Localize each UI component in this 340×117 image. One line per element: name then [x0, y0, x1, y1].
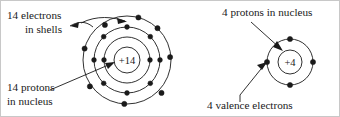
carbon-atom: +4 — [264, 36, 315, 87]
atomic-structure-figure: +14 — [0, 0, 340, 117]
figure-canvas: +14 — [1, 1, 340, 117]
carbon-nucleus-label: +4 — [284, 57, 296, 68]
electrons-leader-b-arrow — [117, 18, 127, 24]
electron-dot — [125, 91, 130, 96]
electron-dot — [87, 84, 92, 89]
electrons-label-line1: 14 electrons — [7, 9, 61, 21]
electron-dot — [287, 36, 292, 41]
valence-leader-right-line — [240, 64, 265, 102]
electron-dot — [148, 34, 153, 39]
electron-dot — [148, 58, 153, 63]
valence-electrons-label: 4 valence electrons — [207, 99, 293, 111]
silicon-nucleus-label: +14 — [119, 55, 136, 66]
electron-dot — [122, 101, 127, 106]
electron-dot — [155, 26, 160, 31]
leader-lines — [50, 18, 283, 103]
valence-leader-right-arrow — [257, 62, 267, 70]
electron-dot — [168, 55, 173, 60]
electron-dot — [125, 25, 130, 30]
electron-dot — [287, 82, 292, 87]
protons-leader-left-arrow — [105, 62, 115, 69]
protons-leader-left-line — [50, 63, 113, 90]
silicon-atom: +14 — [82, 15, 173, 107]
electron-dot — [101, 34, 106, 39]
electron-dot — [82, 46, 87, 51]
protons-right-label: 4 protons in nucleus — [222, 6, 312, 18]
electron-dot — [92, 58, 97, 63]
electron-dot — [310, 59, 315, 64]
protons-left-label-line2: in nucleus — [7, 95, 53, 107]
electron-dot — [158, 58, 163, 63]
electron-dot — [102, 58, 107, 63]
electron-dot — [102, 22, 107, 27]
electron-dot — [101, 81, 106, 86]
electron-dot — [159, 90, 164, 95]
electron-dot — [136, 15, 141, 20]
electrons-label-line2: in shells — [25, 23, 62, 35]
electron-dot — [148, 81, 153, 86]
protons-left-label-line1: 14 protons — [7, 81, 55, 93]
